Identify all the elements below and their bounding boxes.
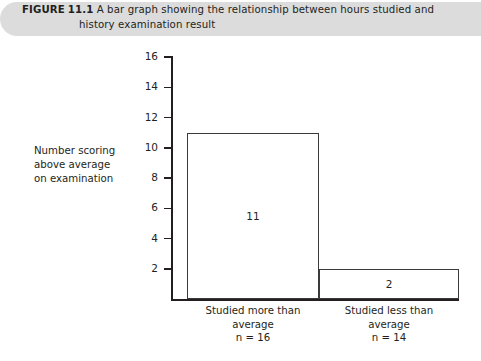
y-axis-tick-label-wrap: 2 <box>130 263 158 274</box>
y-axis-tick-label-wrap: 8 <box>130 172 158 183</box>
y-axis-tick-label: 8 <box>132 172 158 183</box>
bar-value-label: 11 <box>187 210 319 222</box>
figure-label: FIGURE <box>22 4 65 15</box>
y-axis-tick-label: 12 <box>132 112 158 123</box>
y-axis-tick-label: 4 <box>132 233 158 244</box>
y-axis-tick-label-wrap: 4 <box>130 233 158 244</box>
y-axis-tick-label-wrap: 16 <box>130 51 158 62</box>
bar-value-label: 2 <box>319 278 459 290</box>
y-axis-tick-label-wrap: 10 <box>130 142 158 153</box>
bar-chart: Number scoring above average on examinat… <box>0 36 481 361</box>
figure-number: 11.1 <box>68 4 94 15</box>
y-axis-tick <box>164 117 172 119</box>
y-axis-tick-label: 16 <box>132 51 158 62</box>
y-axis-tick <box>164 177 172 179</box>
y-axis-tick-label-wrap: 14 <box>130 81 158 92</box>
y-axis-tick-label: 2 <box>132 263 158 274</box>
y-axis-tick-label: 6 <box>132 202 158 213</box>
y-axis-tick <box>164 268 172 270</box>
y-axis-title-line-2: above average <box>34 158 154 172</box>
y-axis-tick-label-wrap: 6 <box>130 202 158 213</box>
y-axis-tick <box>164 147 172 149</box>
y-axis-tick <box>164 208 172 210</box>
x-axis-category-label-line: n = 14 <box>289 331 481 345</box>
figure-caption-line1: A bar graph showing the relationship bet… <box>97 4 434 15</box>
y-axis-tick-label: 10 <box>132 142 158 153</box>
y-axis-tick <box>164 238 172 240</box>
x-axis-category-label: Studied less thanaveragen = 14 <box>289 304 481 345</box>
figure-caption: FIGURE11.1 A bar graph showing the relat… <box>22 3 474 32</box>
y-axis-tick-label-wrap: 12 <box>130 112 158 123</box>
x-axis-category-label-line: Studied less than <box>289 304 481 318</box>
figure-caption-line2: history examination result <box>79 18 474 33</box>
y-axis-tick <box>164 56 172 58</box>
x-axis-line <box>171 299 459 301</box>
x-axis-category-label-line: average <box>289 318 481 332</box>
y-axis-tick <box>164 87 172 89</box>
y-axis-tick-label: 14 <box>132 81 158 92</box>
